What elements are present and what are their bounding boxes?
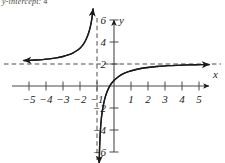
right-branch-start-arrow bbox=[99, 65, 209, 163]
x-tick-label: −2 bbox=[74, 93, 87, 105]
x-axis-label: x bbox=[212, 68, 218, 80]
x-tick-label: −4 bbox=[40, 93, 53, 105]
y-tick-label: 2 bbox=[101, 58, 107, 70]
x-tick-label: 3 bbox=[161, 93, 168, 105]
left-branch bbox=[24, 9, 93, 60]
y-tick-label: −4 bbox=[93, 124, 106, 136]
x-tick-label: 1 bbox=[128, 93, 134, 105]
x-tick-label: −5 bbox=[23, 93, 36, 105]
left-branch-start-arrow bbox=[24, 9, 93, 60]
y-axis-label: y bbox=[118, 14, 124, 26]
y-tick-label: −2 bbox=[93, 102, 106, 114]
y-tick-label: 4 bbox=[101, 36, 107, 48]
x-tick-label: 4 bbox=[179, 93, 185, 105]
x-tick-label: −3 bbox=[57, 93, 70, 105]
x-tick-label: 2 bbox=[145, 93, 151, 105]
x-axis-tick-labels: −5−4−3−2−112345 bbox=[23, 93, 203, 105]
y-tick-label: 6 bbox=[101, 14, 107, 26]
graph-figure: y-intercept: 4 −5−4−3−2−112345 642−2−4−6… bbox=[0, 0, 225, 163]
asymptote-lines bbox=[4, 18, 221, 160]
y-tick-label: −6 bbox=[93, 146, 106, 158]
x-tick-label: 5 bbox=[196, 93, 202, 105]
coordinate-plane: −5−4−3−2−112345 642−2−4−6 x y bbox=[0, 0, 225, 163]
